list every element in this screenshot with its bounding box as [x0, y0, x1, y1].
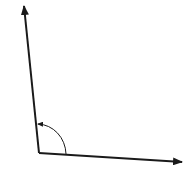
angle-diagram: [0, 0, 189, 173]
angle-arc-arrow: [38, 124, 66, 154]
horizontal-ray: [39, 153, 182, 162]
vertical-ray: [24, 6, 39, 153]
